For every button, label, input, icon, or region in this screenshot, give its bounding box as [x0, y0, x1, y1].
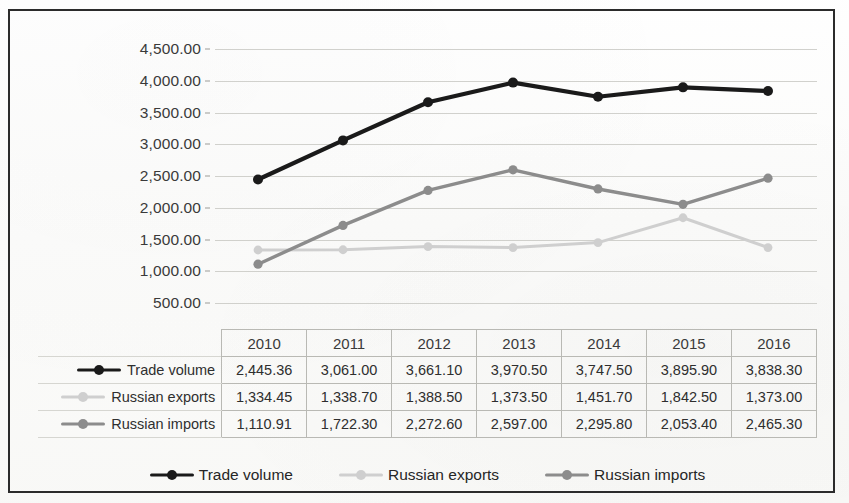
table-row-label: Trade volume	[127, 362, 215, 378]
data-point-marker	[338, 221, 347, 230]
y-axis-tick-mark	[205, 207, 210, 208]
legend-item: Russian imports	[545, 466, 705, 484]
plot-lines	[215, 41, 817, 313]
table-cell: 3,747.50	[562, 357, 647, 384]
table-row-label: Russian imports	[111, 416, 215, 432]
y-axis-tick-mark	[205, 112, 210, 113]
chart-outer-frame: 500.001,000.001,500.002,000.002,500.003,…	[8, 9, 835, 493]
data-point-marker	[339, 245, 348, 254]
table-row-header: Russian exports	[38, 384, 222, 411]
legend-swatch-icon	[545, 469, 589, 481]
legend-label: Trade volume	[199, 466, 293, 484]
table-row: Russian exports1,334.451,338.701,388.501…	[38, 384, 817, 411]
y-axis-tick-label: 1,500.00	[140, 231, 201, 249]
data-point-marker	[679, 213, 688, 222]
y-axis-tick-label: 2,000.00	[140, 199, 201, 217]
data-point-marker	[508, 165, 517, 174]
y-axis-tick-label: 3,500.00	[140, 104, 201, 122]
table-cell: 2,272.60	[392, 411, 477, 438]
y-axis-tick-label: 2,500.00	[140, 167, 201, 185]
table-cell: 1,373.00	[731, 384, 816, 411]
table-row-header: Russian imports	[38, 411, 222, 438]
table-row: Trade volume2,445.363,061.003,661.103,97…	[38, 357, 817, 384]
y-axis-tick-mark	[205, 144, 210, 145]
y-axis-tick-label: 3,000.00	[140, 135, 201, 153]
data-point-marker	[678, 82, 688, 92]
table-cell: 3,838.30	[731, 357, 816, 384]
table-row-header: Trade volume	[38, 357, 222, 384]
table-column-header: 2016	[731, 330, 816, 357]
table-column-header: 2012	[392, 330, 477, 357]
y-axis-tick-mark	[205, 176, 210, 177]
table-column-header: 2011	[307, 330, 392, 357]
legend-item: Russian exports	[339, 466, 499, 484]
data-point-marker	[509, 243, 518, 252]
y-axis-tick-label: 1,000.00	[140, 262, 201, 280]
data-point-marker	[678, 200, 687, 209]
y-axis-tick-mark	[205, 239, 210, 240]
table-cell: 2,597.00	[477, 411, 562, 438]
table-cell: 1,388.50	[392, 384, 477, 411]
data-point-marker	[508, 78, 518, 88]
table-body: Trade volume2,445.363,061.003,661.103,97…	[38, 357, 817, 438]
table-column-header: 2013	[477, 330, 562, 357]
data-point-marker	[423, 97, 433, 107]
table-cell: 1,334.45	[222, 384, 307, 411]
data-table: 2010201120122013201420152016 Trade volum…	[38, 329, 817, 438]
data-point-marker	[593, 184, 602, 193]
table-column-header: 2014	[562, 330, 647, 357]
table-cell: 2,295.80	[562, 411, 647, 438]
table-row: Russian imports1,110.911,722.302,272.602…	[38, 411, 817, 438]
legend-swatch-icon	[150, 469, 194, 481]
y-axis-tick-mark	[205, 80, 210, 81]
series-line	[258, 83, 768, 180]
series-swatch-icon	[61, 418, 105, 430]
table-cell: 3,661.10	[392, 357, 477, 384]
y-axis-tick-label: 4,000.00	[140, 72, 201, 90]
legend-label: Russian exports	[388, 466, 499, 484]
table-cell: 1,722.30	[307, 411, 392, 438]
table-header-row: 2010201120122013201420152016	[38, 330, 817, 357]
data-point-marker	[764, 243, 773, 252]
y-axis-tick-mark	[205, 49, 210, 50]
plot-area	[215, 41, 817, 313]
data-point-marker	[424, 242, 433, 251]
data-point-marker	[254, 246, 263, 255]
table-cell: 1,338.70	[307, 384, 392, 411]
table-column-header: 2010	[222, 330, 307, 357]
table-corner-cell	[38, 330, 222, 357]
chart-page: 500.001,000.001,500.002,000.002,500.003,…	[0, 0, 849, 503]
data-point-marker	[763, 174, 772, 183]
data-point-marker	[253, 174, 263, 184]
table-cell: 1,110.91	[222, 411, 307, 438]
table-cell: 3,061.00	[307, 357, 392, 384]
data-point-marker	[594, 238, 603, 247]
table-row-label: Russian exports	[111, 389, 215, 405]
table-cell: 2,445.36	[222, 357, 307, 384]
table-cell: 2,465.30	[731, 411, 816, 438]
table-column-header: 2015	[646, 330, 731, 357]
series-russian-imports	[253, 165, 772, 269]
table-cell: 2,053.40	[646, 411, 731, 438]
chart-legend: Trade volumeRussian exportsRussian impor…	[38, 466, 817, 484]
data-point-marker	[763, 86, 773, 96]
table-header: 2010201120122013201420152016	[38, 330, 817, 357]
table-cell: 3,970.50	[477, 357, 562, 384]
legend-label: Russian imports	[594, 466, 705, 484]
y-axis-tick-label: 4,500.00	[140, 40, 201, 58]
data-point-marker	[338, 135, 348, 145]
table-cell: 3,895.90	[646, 357, 731, 384]
data-point-marker	[593, 92, 603, 102]
table-cell: 1,451.70	[562, 384, 647, 411]
series-russian-exports	[254, 213, 773, 254]
y-axis-tick-label: 500.00	[153, 294, 201, 312]
data-point-marker	[253, 260, 262, 269]
y-axis-tick-mark	[205, 271, 210, 272]
table-cell: 1,373.50	[477, 384, 562, 411]
series-swatch-icon	[61, 391, 105, 403]
legend-item: Trade volume	[150, 466, 293, 484]
y-axis-tick-mark	[205, 303, 210, 304]
table-cell: 1,842.50	[646, 384, 731, 411]
series-swatch-icon	[77, 364, 121, 376]
y-axis: 500.001,000.001,500.002,000.002,500.003,…	[105, 41, 209, 313]
